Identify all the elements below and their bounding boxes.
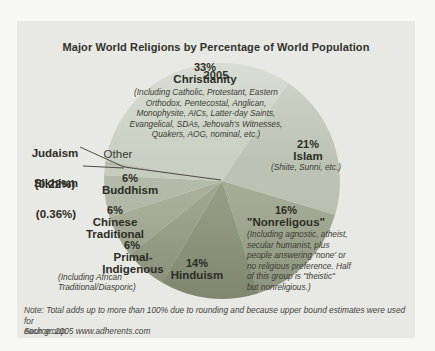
chart-title-line1: Major World Religions by Percentage of W… xyxy=(17,40,415,54)
chart-figure: Major World Religions by Percentage of W… xyxy=(0,0,435,351)
primal-indigenous-pct-label: 6% xyxy=(124,239,140,251)
primal-indigenous-note: (Including African Traditional/Diasporic… xyxy=(58,273,136,292)
sikhism-pct-label: (0.36%) xyxy=(34,208,78,221)
footer-source: Source: 2005 www.adherents.com xyxy=(24,326,409,337)
christianity-name-label: Christianity xyxy=(173,73,236,85)
christianity-note: (Including Catholic, Protestant, Eastern… xyxy=(116,87,296,140)
buddhism-pct-label: 6% xyxy=(122,172,138,184)
hinduism-name-label: Hinduism xyxy=(171,269,223,281)
judaism-name-label: Judaism xyxy=(32,147,79,160)
christianity-pct-label: 33% xyxy=(194,61,216,73)
chinese-traditional-name-label: Chinese Traditional xyxy=(86,216,144,240)
judaism-label: Judaism (0.22%) xyxy=(32,129,79,209)
islam-name-label: Islam xyxy=(293,150,322,162)
islam-note: (Shiite, Sunni, etc.) xyxy=(271,162,341,173)
nonreligious-pct-label: 16% xyxy=(275,204,297,216)
judaism-pct-label: (0.22%) xyxy=(32,178,79,191)
nonreligious-note: (Including agnostic, atheist, secular hu… xyxy=(247,229,351,293)
buddhism-name-label: Buddhism xyxy=(102,184,158,196)
hinduism-pct-label: 14% xyxy=(186,257,208,269)
islam-pct-label: 21% xyxy=(297,138,319,150)
nonreligious-name-label: "Nonreligous" xyxy=(247,216,325,228)
chinese-traditional-pct-label: 6% xyxy=(107,204,123,216)
other-label: Other xyxy=(104,148,133,160)
